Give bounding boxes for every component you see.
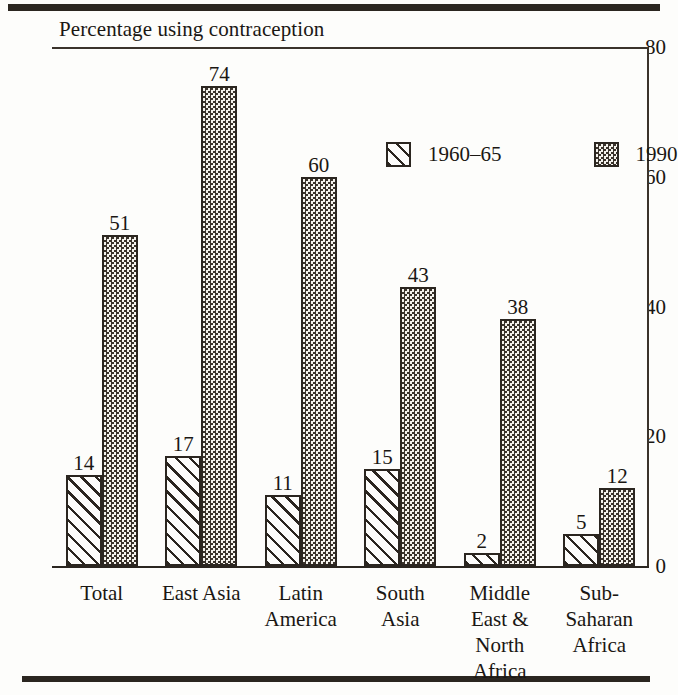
bar: 2 [464, 553, 500, 566]
bar: 5 [563, 534, 599, 566]
x-axis-label: South Asia [351, 580, 451, 632]
bar: 11 [265, 495, 301, 566]
chart-title: Percentage using contraception [59, 17, 324, 42]
bar: 38 [500, 319, 536, 566]
bar-value-label: 43 [408, 265, 429, 286]
bar-value-label: 14 [73, 453, 94, 474]
top-rule [8, 4, 660, 11]
diagonal-hatch-swatch [386, 142, 411, 167]
plot-area: 1417111525517460433812 1960–65 1990 [52, 47, 649, 566]
bar-value-label: 2 [477, 531, 488, 552]
legend-label-1990: 1990 [636, 142, 678, 167]
bar-value-label: 15 [372, 447, 393, 468]
legend-entry-1960-65: 1960–65 [386, 142, 502, 167]
bar-value-label: 12 [607, 466, 628, 487]
chart-legend: 1960–65 1990 [386, 142, 678, 167]
bottom-rule [22, 676, 650, 682]
bar-value-label: 11 [273, 473, 293, 494]
checkerboard-swatch [594, 142, 619, 167]
bar: 17 [165, 456, 201, 566]
x-axis-label: Total [52, 580, 152, 606]
bar: 15 [364, 469, 400, 566]
x-axis-label: East Asia [152, 580, 252, 606]
bar-value-label: 38 [507, 297, 528, 318]
x-axis-label: Latin America [251, 580, 351, 632]
bar: 12 [599, 488, 635, 566]
bar-value-label: 17 [173, 434, 194, 455]
bar: 51 [102, 235, 138, 566]
x-axis-label: Sub- Saharan Africa [550, 580, 650, 658]
bar-value-label: 74 [209, 64, 230, 85]
bar: 43 [400, 287, 436, 566]
bar-value-label: 51 [109, 213, 130, 234]
bar: 74 [201, 86, 237, 566]
bar: 14 [66, 475, 102, 566]
legend-entry-1990: 1990 [594, 142, 678, 167]
legend-label-1960-65: 1960–65 [428, 142, 502, 167]
bar-value-label: 60 [308, 155, 329, 176]
bar: 60 [301, 177, 337, 566]
bar-value-label: 5 [576, 512, 587, 533]
x-axis-label: Middle East & North Africa [450, 580, 550, 684]
